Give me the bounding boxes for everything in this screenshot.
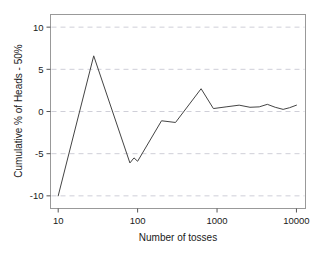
y-axis-tick-label: -5 [35, 148, 43, 159]
x-axis-tick-label: 10000 [283, 215, 309, 226]
y-axis-tick-label: 10 [33, 22, 44, 33]
x-axis-tick-label: 100 [130, 215, 146, 226]
chart-figure: 1050-5-10 10100100010000 Cumulative % of… [0, 0, 320, 254]
chart-background [0, 0, 320, 254]
y-axis-tick-label: 0 [38, 106, 43, 117]
y-axis-tick-label: 5 [38, 64, 43, 75]
y-axis-tick-label: -10 [30, 190, 44, 201]
x-axis-title: Number of tosses [139, 232, 217, 243]
line-chart: 1050-5-10 10100100010000 Cumulative % of… [0, 0, 320, 254]
x-axis-tick-label: 10 [53, 215, 64, 226]
y-axis-title: Cumulative % of Heads - 50% [13, 44, 24, 178]
x-axis-tick-label: 1000 [206, 215, 227, 226]
